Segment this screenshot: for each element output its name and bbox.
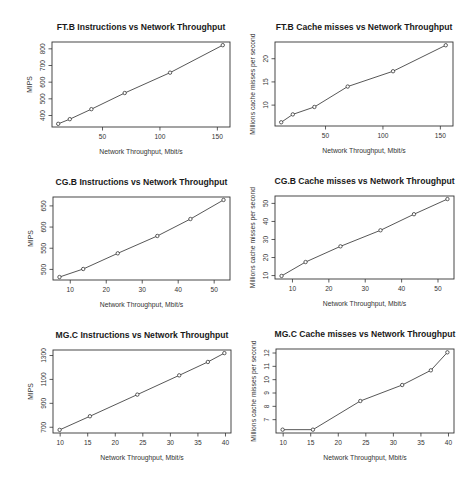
plot-frame: [276, 349, 454, 433]
x-tick-label: 30: [167, 439, 175, 446]
data-line: [58, 45, 223, 124]
x-axis-label: Network Throughput, Mbit/s: [322, 147, 406, 155]
y-tick-label: 40: [262, 217, 269, 225]
chart-title: FT.B Instructions vs Network Throughput: [57, 22, 226, 32]
x-tick-label: 25: [139, 439, 147, 446]
data-point: [88, 415, 91, 418]
x-tick-label: 100: [377, 132, 388, 139]
x-tick-label: 30: [139, 286, 147, 293]
data-point: [123, 91, 126, 94]
x-tick-label: 40: [222, 439, 230, 446]
y-tick-label: 7: [263, 418, 270, 422]
x-tick-label: 40: [445, 439, 453, 446]
y-tick-label: 10: [262, 272, 269, 280]
chart-panel-4: CG.B Cache misses vs Network Throughput1…: [249, 176, 455, 308]
y-axis: 101520Millions cache misses per second: [249, 33, 275, 134]
x-axis: 1020304050Network Throughput, Mbit/s: [67, 280, 219, 309]
chart-panel-1: FT.B Instructions vs Network Throughput5…: [26, 22, 230, 156]
y-axis-label: MIPS: [27, 230, 34, 247]
x-tick-label: 20: [103, 286, 111, 293]
data-point: [90, 107, 93, 110]
y-tick-label: 800: [39, 43, 46, 54]
x-tick-label: 30: [390, 439, 398, 446]
data-point: [339, 245, 342, 248]
x-tick-label: 50: [210, 286, 218, 293]
data-point: [221, 43, 224, 46]
y-tick-label: 500: [39, 93, 46, 104]
y-tick-label: 20: [262, 254, 269, 262]
data-point: [412, 213, 415, 216]
x-tick-label: 10: [279, 439, 287, 446]
data-point: [136, 393, 139, 396]
chart-title: CG.B Cache misses vs Network Throughput: [274, 176, 454, 186]
x-axis-label: Network Throughput, Mbit/s: [100, 454, 184, 462]
data-point: [359, 399, 362, 402]
x-tick-label: 15: [307, 439, 315, 446]
x-tick-label: 40: [175, 286, 183, 293]
data-point: [189, 217, 192, 220]
data-point: [281, 428, 284, 431]
data-point: [116, 252, 119, 255]
x-axis: 50100150Network Throughput, Mbit/s: [99, 127, 223, 156]
y-tick-label: 20: [262, 55, 269, 63]
chart-title: MG.C Cache misses vs Network Throughput: [275, 329, 456, 339]
data-point: [156, 234, 159, 237]
x-tick-label: 35: [194, 439, 202, 446]
y-tick-label: 10: [262, 101, 269, 109]
data-point: [280, 121, 283, 124]
y-axis: 789101112Millions cache misses per secon…: [250, 340, 276, 441]
x-tick-label: 30: [362, 285, 370, 292]
y-tick-label: 9: [263, 391, 270, 395]
chart-panel-3: CG.B Instructions vs Network Throughput1…: [27, 177, 230, 309]
chart-grid: FT.B Instructions vs Network Throughput5…: [0, 0, 472, 483]
data-point: [313, 105, 316, 108]
y-tick-label: 550: [40, 242, 47, 253]
y-tick-label: 30: [262, 235, 269, 243]
y-tick-label: 500: [40, 264, 47, 275]
x-tick-label: 25: [362, 439, 370, 446]
data-point: [222, 198, 225, 201]
y-axis-label: Millions cache misses per second: [249, 187, 257, 288]
data-point: [391, 70, 394, 73]
y-axis-label: MIPS: [27, 383, 34, 400]
x-tick-label: 100: [154, 133, 165, 140]
data-line: [60, 353, 225, 430]
y-axis-label: Millions cache misses per second: [249, 33, 257, 134]
y-tick-label: 11: [263, 363, 270, 370]
x-tick-label: 20: [325, 285, 333, 292]
data-point: [346, 85, 349, 88]
x-tick-label: 150: [435, 132, 446, 139]
y-tick-label: 15: [262, 78, 269, 86]
data-point: [304, 260, 307, 263]
y-tick-label: 10: [263, 376, 270, 384]
x-tick-label: 15: [84, 439, 92, 446]
chart-panel-6: MG.C Cache misses vs Network Throughput1…: [250, 329, 456, 462]
x-axis-label: Network Throughput, Mbit/s: [99, 148, 183, 156]
x-tick-label: 20: [335, 439, 343, 446]
y-tick-label: 650: [40, 200, 47, 211]
data-point: [311, 428, 314, 431]
y-axis: 500550600650MIPS: [27, 200, 53, 275]
data-point: [68, 117, 71, 120]
x-axis: 1020304050Network Throughput, Mbit/s: [289, 279, 442, 308]
y-tick-label: 50: [262, 199, 269, 207]
data-point: [82, 267, 85, 270]
y-tick-label: 600: [40, 221, 47, 232]
plot-frame: [53, 197, 230, 280]
x-tick-label: 50: [322, 132, 330, 139]
data-point: [379, 229, 382, 232]
data-point: [58, 275, 61, 278]
data-point: [223, 351, 226, 354]
x-axis: 10152025303540Network Throughput, Mbit/s: [56, 433, 229, 462]
data-point: [429, 369, 432, 372]
data-point: [177, 374, 180, 377]
x-tick-label: 50: [99, 133, 107, 140]
data-line: [59, 200, 223, 277]
y-tick-label: 400: [39, 110, 46, 121]
data-point: [400, 383, 403, 386]
plot-frame: [52, 42, 230, 127]
x-tick-label: 10: [289, 285, 297, 292]
y-axis: 400500600700800MIPS: [26, 43, 52, 121]
x-tick-label: 150: [212, 133, 223, 140]
chart-title: MG.C Instructions vs Network Throughput: [56, 330, 229, 340]
